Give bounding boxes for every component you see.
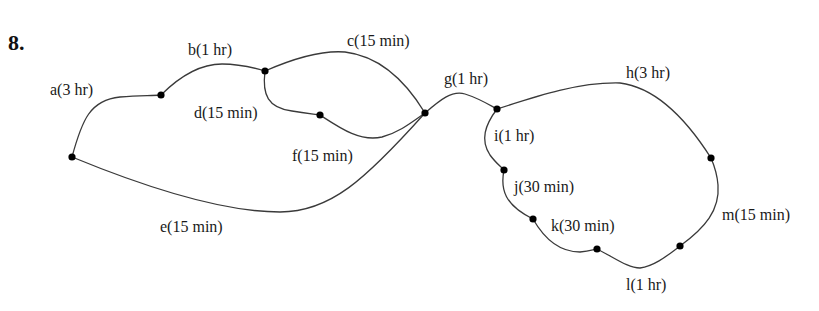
label-d: d(15 min): [194, 104, 258, 122]
edge-c: [265, 52, 425, 113]
label-j: j(30 min): [513, 178, 574, 196]
label-c: c(15 min): [347, 32, 410, 50]
node-1: [68, 153, 75, 160]
label-a: a(3 hr): [50, 81, 93, 99]
problem-number: 8.: [8, 30, 25, 55]
edge-labels: a(3 hr) b(1 hr) c(15 min) d(15 min) e(15…: [50, 32, 790, 294]
label-i: i(1 hr): [494, 127, 534, 145]
label-f: f(15 min): [292, 147, 353, 165]
node-8: [529, 215, 536, 222]
node-2: [157, 91, 164, 98]
label-e: e(15 min): [160, 218, 223, 236]
edge-g: [425, 93, 497, 113]
edge-a: [72, 95, 161, 157]
edge-f: [320, 113, 425, 138]
edge-m: [680, 158, 718, 246]
label-l: l(1 hr): [626, 276, 666, 294]
node-3: [261, 67, 268, 74]
edge-l: [597, 246, 680, 268]
edge-d: [264, 71, 320, 115]
label-k: k(30 min): [551, 217, 615, 235]
node-4: [316, 111, 323, 118]
label-g: g(1 hr): [444, 70, 488, 88]
edge-h: [497, 83, 711, 158]
edge-b: [161, 64, 265, 95]
node-11: [707, 154, 714, 161]
edges: [72, 52, 718, 268]
node-5: [421, 109, 428, 116]
edge-e: [72, 113, 425, 212]
node-7: [500, 166, 507, 173]
label-b: b(1 hr): [188, 41, 232, 59]
node-6: [493, 105, 500, 112]
node-10: [676, 242, 683, 249]
label-m: m(15 min): [722, 206, 790, 224]
label-h: h(3 hr): [626, 64, 670, 82]
node-9: [593, 245, 600, 252]
activity-network-diagram: 8. a(3 hr) b(1 hr) c(15 min) d(15 min: [0, 0, 819, 311]
